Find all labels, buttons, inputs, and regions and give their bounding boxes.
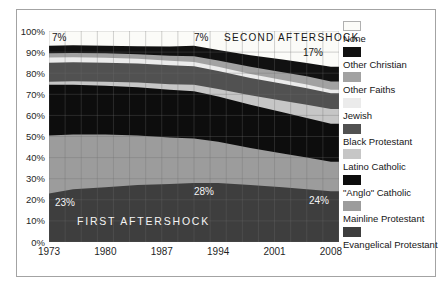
legend-item-anglo-catholic: "Anglo" Catholic bbox=[343, 175, 439, 201]
figure-frame: 100%90%80%70%60%50%40%30%20%10%0% 197319… bbox=[16, 9, 436, 277]
other-faiths-swatch-icon bbox=[343, 72, 361, 82]
y-axis-label: 70% bbox=[17, 89, 45, 100]
evangelical-peak-annotation: 28% bbox=[194, 186, 214, 197]
legend-item-other-christian: Other Christian bbox=[343, 47, 439, 73]
legend-label: Other Faiths bbox=[343, 84, 439, 95]
first-aftershock-label: FIRST AFTERSHOCK bbox=[77, 215, 210, 227]
y-axis-label: 80% bbox=[17, 68, 45, 79]
legend-label: Jewish bbox=[343, 110, 439, 121]
legend-item-mainline-protestant: Mainline Protestant bbox=[343, 201, 439, 227]
y-axis-label: 50% bbox=[17, 131, 45, 142]
none-swatch-icon bbox=[343, 21, 361, 31]
legend-label: Evangelical Protestant bbox=[343, 239, 439, 250]
y-axis-label: 60% bbox=[17, 110, 45, 121]
y-axis-label: 30% bbox=[17, 173, 45, 184]
x-axis-label: 1994 bbox=[198, 246, 238, 257]
legend-item-none: None bbox=[343, 21, 439, 47]
figure-page: { "figure": { "annotations": { "none_sta… bbox=[0, 0, 447, 295]
legend-item-jewish: Jewish bbox=[343, 98, 439, 124]
stacked-area-chart bbox=[49, 31, 339, 242]
legend-label: None bbox=[343, 33, 439, 44]
legend-item-evangelical-protestant: Evangelical Protestant bbox=[343, 227, 439, 253]
x-axis-label: 1980 bbox=[85, 246, 125, 257]
y-axis-label: 10% bbox=[17, 215, 45, 226]
black-protestant-swatch-icon bbox=[343, 124, 361, 134]
x-axis-label: 1973 bbox=[29, 246, 69, 257]
jewish-swatch-icon bbox=[343, 98, 361, 108]
mainline-protestant-swatch-icon bbox=[343, 201, 361, 211]
y-axis-label: 20% bbox=[17, 194, 45, 205]
legend-label: Other Christian bbox=[343, 59, 439, 70]
evangelical-start-annotation: 23% bbox=[55, 197, 75, 208]
legend-label: Mainline Protestant bbox=[343, 213, 439, 224]
y-axis-label: 90% bbox=[17, 47, 45, 58]
anglo-catholic-swatch-icon bbox=[343, 175, 361, 185]
x-axis-label: 1987 bbox=[142, 246, 182, 257]
evangelical-protestant-swatch-icon bbox=[343, 227, 361, 237]
other-christian-swatch-icon bbox=[343, 47, 361, 57]
second-aftershock-label: SECOND AFTERSHOCK bbox=[224, 32, 359, 43]
latino-catholic-swatch-icon bbox=[343, 149, 361, 159]
evangelical-end-annotation: 24% bbox=[309, 195, 329, 206]
none-start-annotation: 7% bbox=[52, 32, 66, 43]
legend-label: Black Protestant bbox=[343, 136, 439, 147]
legend-item-latino-catholic: Latino Catholic bbox=[343, 149, 439, 175]
legend-item-black-protestant: Black Protestant bbox=[343, 124, 439, 150]
x-axis-label: 2001 bbox=[255, 246, 295, 257]
legend-label: "Anglo" Catholic bbox=[343, 187, 439, 198]
none-mid-annotation: 7% bbox=[194, 32, 208, 43]
y-axis-label: 40% bbox=[17, 152, 45, 163]
legend-label: Latino Catholic bbox=[343, 161, 439, 172]
legend-item-other-faiths: Other Faiths bbox=[343, 72, 439, 98]
y-axis-label: 100% bbox=[17, 26, 45, 37]
y-axis-label: 0% bbox=[17, 237, 45, 248]
none-end-annotation: 17% bbox=[297, 47, 323, 58]
chart-legend: NoneOther ChristianOther FaithsJewishBla… bbox=[343, 21, 439, 252]
